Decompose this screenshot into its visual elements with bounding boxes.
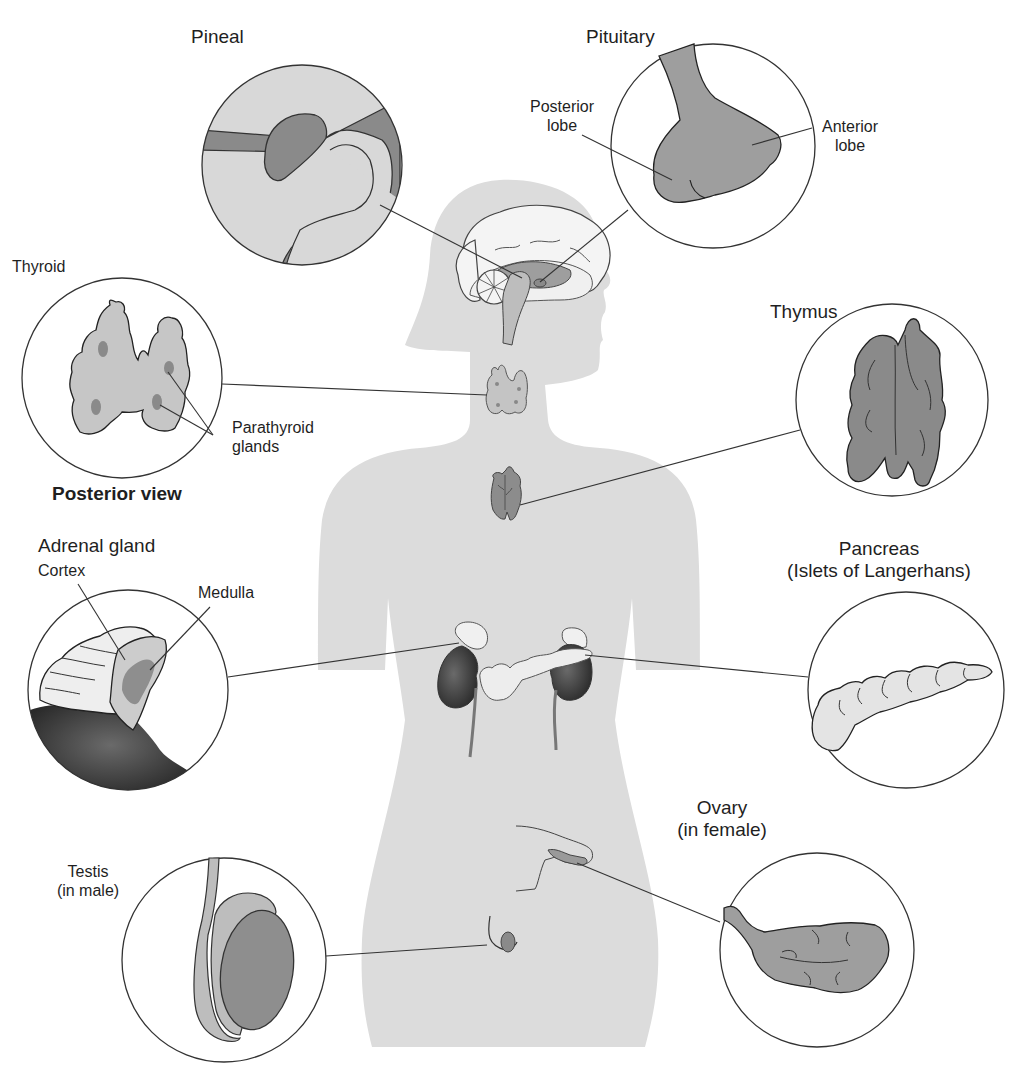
label-testis: Testis (in male) bbox=[48, 862, 128, 900]
label-pancreas-line2: (Islets of Langerhans) bbox=[740, 560, 1018, 582]
testis-callout bbox=[122, 858, 326, 1062]
label-cortex: Cortex bbox=[38, 561, 85, 580]
label-parathyroid: Parathyroid glands bbox=[232, 418, 314, 456]
label-pituitary: Pituitary bbox=[586, 26, 655, 48]
label-anterior-lobe: Anterior lobe bbox=[814, 117, 886, 155]
label-anterior-lobe-line1: Anterior bbox=[814, 117, 886, 136]
label-pancreas-line1: Pancreas bbox=[740, 538, 1018, 560]
label-posterior-lobe-line1: Posterior bbox=[522, 97, 602, 116]
label-ovary-line1: Ovary bbox=[668, 797, 776, 819]
adrenal-callout bbox=[28, 590, 228, 795]
label-testis-line1: Testis bbox=[48, 862, 128, 881]
label-ovary-line2: (in female) bbox=[668, 819, 776, 841]
thymus-callout bbox=[796, 304, 988, 496]
pancreas-callout bbox=[808, 592, 1004, 788]
label-thyroid: Thyroid bbox=[12, 257, 65, 276]
label-pineal: Pineal bbox=[191, 26, 244, 48]
label-parathyroid-line2: glands bbox=[232, 437, 314, 456]
label-thymus: Thymus bbox=[770, 301, 838, 323]
label-posterior-lobe: Posterior lobe bbox=[522, 97, 602, 135]
label-parathyroid-line1: Parathyroid bbox=[232, 418, 314, 437]
label-pancreas: Pancreas (Islets of Langerhans) bbox=[740, 538, 1018, 582]
ovary-callout bbox=[720, 853, 914, 1047]
label-testis-line2: (in male) bbox=[48, 881, 128, 900]
label-adrenal-gland: Adrenal gland bbox=[38, 535, 155, 557]
label-posterior-lobe-line2: lobe bbox=[522, 116, 602, 135]
thyroid-callout bbox=[22, 278, 222, 478]
label-medulla: Medulla bbox=[198, 583, 254, 602]
label-ovary: Ovary (in female) bbox=[668, 797, 776, 841]
pituitary-callout bbox=[611, 44, 815, 248]
label-anterior-lobe-line2: lobe bbox=[814, 136, 886, 155]
label-posterior-view: Posterior view bbox=[52, 483, 182, 505]
thymus-small bbox=[491, 467, 521, 520]
